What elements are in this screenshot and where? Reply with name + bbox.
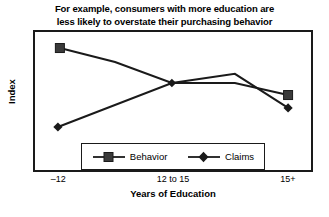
chart-title-line-2: less likely to overstate their purchasin… xyxy=(0,16,329,29)
series-line-behavior xyxy=(60,48,288,95)
x-tick-1: 12 to 15 xyxy=(157,174,190,184)
data-point-marker-diamond xyxy=(53,122,62,131)
data-point-marker-square xyxy=(284,91,293,100)
chart-figure: For example, consumers with more educati… xyxy=(0,0,329,217)
chart-legend: Behavior Claims xyxy=(81,143,265,170)
x-tick-2: 15+ xyxy=(280,174,295,184)
legend-item-claims[interactable]: Claims xyxy=(187,151,254,163)
chart-title-line-1: For example, consumers with more educati… xyxy=(0,3,329,16)
chart-title: For example, consumers with more educati… xyxy=(0,3,329,28)
data-point-marker-diamond xyxy=(168,79,176,87)
legend-label-behavior: Behavior xyxy=(130,151,168,162)
legend-label-claims: Claims xyxy=(225,151,254,162)
legend-item-behavior[interactable]: Behavior xyxy=(92,151,168,163)
y-axis-label: Index xyxy=(6,62,17,122)
x-axis-label: Years of Education xyxy=(33,188,313,199)
legend-square-marker-icon xyxy=(92,151,126,163)
data-point-marker-square xyxy=(55,44,64,53)
legend-diamond-marker-icon xyxy=(187,151,221,163)
x-axis-tick-labels: –12 12 to 15 15+ xyxy=(33,174,313,188)
x-tick-0: –12 xyxy=(51,174,66,184)
